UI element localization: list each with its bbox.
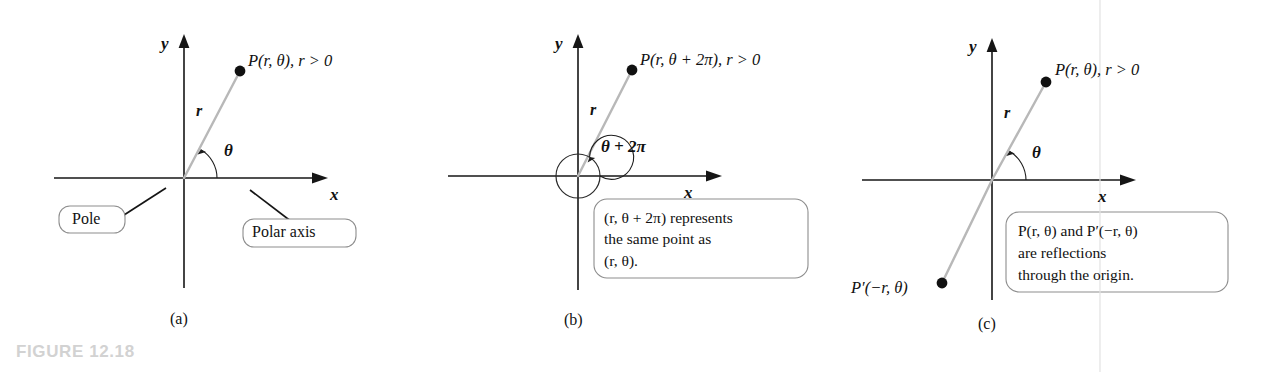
- panel-c-reflected-segment: [942, 180, 992, 283]
- panel-a-x-axis-arrowhead: [312, 173, 328, 184]
- panel-a-polar-axis-leader: [250, 190, 292, 222]
- panel-c-angle-label: θ: [1032, 144, 1041, 161]
- panel-c-angle-arc: [1010, 151, 1027, 180]
- panel-b-callout-line-2: the same point as: [604, 229, 711, 249]
- panel-c-y-axis-arrowhead: [987, 38, 998, 52]
- panel-a-pole-tag-label: Pole: [72, 211, 100, 227]
- panel-a-angle-arc: [201, 150, 217, 178]
- panel-a-pole-leader: [124, 188, 166, 215]
- panel-b-radius-label: r: [590, 102, 596, 118]
- panel-c-point-P: [1041, 77, 1052, 88]
- panel-c-x-axis-arrowhead: [1120, 175, 1136, 186]
- panel-a-y-axis-label: y: [161, 35, 169, 52]
- panel-c-radius-segment: [992, 82, 1046, 180]
- panel-b-caption: (b): [564, 312, 583, 328]
- panel-b-angle-label: θ + 2π: [601, 138, 646, 155]
- panel-a-polar-axis-tag-label: Polar axis: [252, 224, 316, 240]
- panel-c-point-P-prime: [937, 278, 948, 289]
- panel-b-point-label: P(r, θ + 2π), r > 0: [640, 52, 760, 69]
- panel-c-callout-line-3: through the origin.: [1018, 265, 1134, 285]
- panel-b-point-P: [627, 65, 638, 76]
- panel-a-x-axis-label: x: [330, 186, 339, 203]
- polar-coordinates-figure: y x r θ P(r, θ), r > 0 Pole Polar axis (…: [0, 0, 1266, 372]
- panel-b-radius-segment: [578, 70, 632, 176]
- panel-a-graphics: [54, 34, 356, 288]
- panel-b-callout-line-3: (r, θ).: [604, 251, 638, 271]
- panel-a-angle-label: θ: [224, 142, 233, 159]
- panel-b-x-axis-arrowhead: [706, 171, 722, 182]
- panel-a-radius-label: r: [196, 103, 202, 119]
- panel-b-callout-line-1: (r, θ + 2π) represents: [604, 208, 733, 228]
- panel-c-reflected-point-label: P′(−r, θ): [851, 280, 908, 297]
- panel-a-caption: (a): [170, 311, 188, 327]
- panel-a-y-axis-arrowhead: [179, 34, 190, 48]
- panel-c-x-axis-label: x: [1098, 188, 1107, 205]
- panel-c-callout-line-2: are reflections: [1018, 243, 1106, 263]
- panel-c-point-label: P(r, θ), r > 0: [1055, 62, 1139, 79]
- panel-c-caption: (c): [978, 316, 996, 332]
- panel-c-radius-label: r: [1004, 105, 1010, 121]
- panel-a-point-P: [235, 66, 246, 77]
- figure-caption: FIGURE 12.18: [16, 342, 135, 362]
- panel-c-graphics: [862, 0, 1228, 372]
- figure-vector-layer: [0, 0, 1266, 372]
- panel-a-radius-segment: [184, 71, 240, 178]
- panel-a-point-label: P(r, θ), r > 0: [248, 53, 332, 70]
- panel-b-x-axis-label: x: [684, 184, 693, 201]
- panel-b-y-axis-label: y: [555, 35, 563, 52]
- panel-b-y-axis-arrowhead: [573, 34, 584, 48]
- panel-c-y-axis-label: y: [969, 38, 977, 55]
- panel-c-callout-line-1: P(r, θ) and P′(−r, θ): [1018, 221, 1138, 241]
